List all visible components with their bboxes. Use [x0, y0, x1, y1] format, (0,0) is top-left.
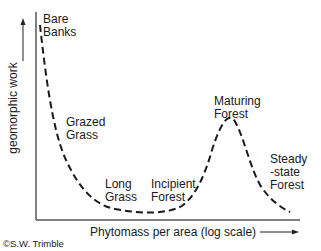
label-incipient-forest: Incipient Forest — [151, 178, 196, 204]
y-axis-label: geomorphic work — [3, 0, 23, 215]
label-long-grass: Long Grass — [105, 178, 137, 204]
label-grazed-grass: Grazed Grass — [66, 116, 105, 142]
label-bare-banks: Bare Banks — [43, 13, 76, 39]
label-maturing-forest: Maturing Forest — [214, 95, 261, 121]
credit-text: ©S.W. Trimble — [3, 238, 64, 249]
x-arrow-head-icon — [292, 230, 299, 235]
x-axis-label: Phytomass per area (log scale) — [90, 225, 256, 239]
label-steady-state-forest: Steady -state Forest — [270, 153, 307, 192]
